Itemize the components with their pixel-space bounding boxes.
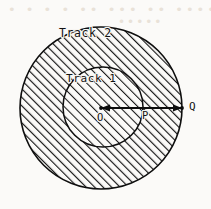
label-track-2: Track 2 bbox=[59, 28, 112, 40]
label-point-q: Q bbox=[189, 101, 196, 112]
label-point-p: P bbox=[142, 110, 148, 121]
label-track-1: Track 1 bbox=[66, 73, 117, 84]
label-point-o: O bbox=[97, 112, 103, 123]
outer-edge-point-marker bbox=[180, 106, 184, 110]
center-point-marker bbox=[99, 106, 103, 110]
figure-container: • • • • •• ••• •• •••• •• ••••• Track 2 … bbox=[0, 0, 211, 209]
